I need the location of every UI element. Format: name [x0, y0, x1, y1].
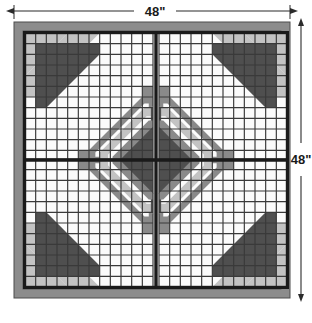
block-bottom-left[interactable] — [25, 159, 153, 287]
block-top-right[interactable] — [159, 33, 287, 161]
quilt-diagram-root: .p-white { fill: #fbfbfb; } .p-light { f… — [0, 0, 312, 323]
dimension-right: 48" — [291, 18, 312, 302]
dimension-top-label: 48" — [145, 4, 166, 19]
dimension-right-label: 48" — [291, 152, 312, 167]
block-top-left[interactable] — [25, 33, 153, 161]
block-bottom-right[interactable] — [159, 159, 287, 287]
quilt-diagram-svg: .p-white { fill: #fbfbfb; } .p-light { f… — [0, 0, 312, 323]
dimension-top: 48" — [6, 4, 298, 19]
